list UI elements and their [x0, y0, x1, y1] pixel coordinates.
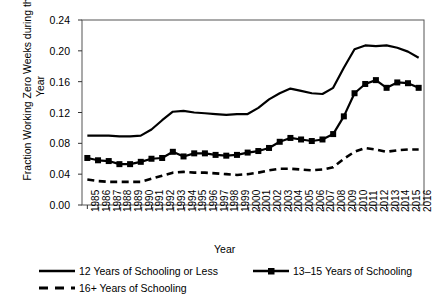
x-tick-label: 1992 [166, 190, 176, 212]
legend-label-3: 16+ Years of Schooling [79, 283, 187, 294]
series-marker [266, 145, 272, 151]
chart-figure: Fraction Working Zero Weeks during the Y… [0, 0, 442, 302]
series-marker [255, 148, 261, 154]
series-marker [373, 77, 379, 83]
x-tick-label: 2001 [262, 190, 272, 212]
x-tick-label: 1999 [241, 190, 251, 212]
y-tick-label: 0.16 [36, 77, 70, 88]
x-tick-label: 2002 [273, 190, 283, 212]
series-marker [245, 150, 251, 156]
y-tick-label: 0.00 [36, 200, 70, 211]
x-tick-label: 2004 [294, 190, 304, 212]
series-marker [202, 150, 208, 156]
legend-swatch-1 [38, 264, 76, 278]
series-marker [277, 139, 283, 145]
series-marker [181, 153, 187, 159]
x-tick-label: 1998 [230, 190, 240, 212]
legend-swatch-2 [252, 264, 290, 278]
x-tick-label: 1993 [177, 190, 187, 212]
series-marker [330, 131, 336, 137]
series-marker [362, 81, 368, 87]
legend-label-1: 12 Years of Schooling or Less [79, 266, 218, 277]
series-marker [234, 152, 240, 158]
x-tick-label: 2014 [401, 190, 411, 212]
x-tick-label: 1986 [102, 190, 112, 212]
x-tick-label: 2016 [423, 190, 433, 212]
y-tick-label: 0.20 [36, 46, 70, 57]
series-line-3 [87, 148, 418, 182]
x-axis-title: Year [214, 244, 235, 255]
series-marker [223, 153, 229, 159]
x-tick-label: 1988 [123, 190, 133, 212]
series-marker [319, 136, 325, 142]
series-marker [309, 138, 315, 144]
x-tick-label: 1996 [209, 190, 219, 212]
series-marker [394, 79, 400, 85]
series-marker [159, 155, 165, 161]
series-marker [106, 158, 112, 164]
x-tick-label: 2007 [326, 190, 336, 212]
y-tick-label: 0.24 [36, 15, 70, 26]
series-marker [416, 85, 422, 91]
series-marker [170, 149, 176, 155]
x-tick-label: 2012 [380, 190, 390, 212]
y-tick-label: 0.08 [36, 138, 70, 149]
series-marker [116, 161, 122, 167]
x-tick-label: 2008 [337, 190, 347, 212]
series-marker [352, 90, 358, 96]
legend-marker-square [268, 268, 275, 275]
series-marker [213, 152, 219, 158]
series-marker [138, 159, 144, 165]
x-tick-label: 2015 [412, 190, 422, 212]
series-marker [191, 150, 197, 156]
series-marker [127, 161, 133, 167]
y-tick-label: 0.04 [36, 169, 70, 180]
series-marker [298, 136, 304, 142]
x-tick-label: 1985 [91, 190, 101, 212]
series-line-2 [87, 80, 418, 164]
series-marker [405, 80, 411, 86]
series-marker [95, 157, 101, 163]
series-marker [384, 85, 390, 91]
x-tick-label: 1989 [134, 190, 144, 212]
plot-frame [82, 20, 424, 205]
legend-label-2: 13–15 Years of Schooling [293, 266, 412, 277]
y-tick-label: 0.12 [36, 108, 70, 119]
x-tick-label: 2011 [369, 190, 379, 212]
x-tick-label: 1991 [155, 190, 165, 212]
x-tick-label: 1995 [198, 190, 208, 212]
x-tick-label: 2009 [348, 190, 358, 212]
y-axis-title: Fraction Working Zero Weeks during the Y… [21, 0, 46, 182]
series-marker [84, 155, 90, 161]
series-marker [148, 156, 154, 162]
series-marker [287, 135, 293, 141]
legend-swatch-3 [38, 281, 76, 295]
x-tick-label: 2005 [305, 190, 315, 212]
series-marker [341, 113, 347, 119]
series-line-1 [87, 45, 418, 136]
